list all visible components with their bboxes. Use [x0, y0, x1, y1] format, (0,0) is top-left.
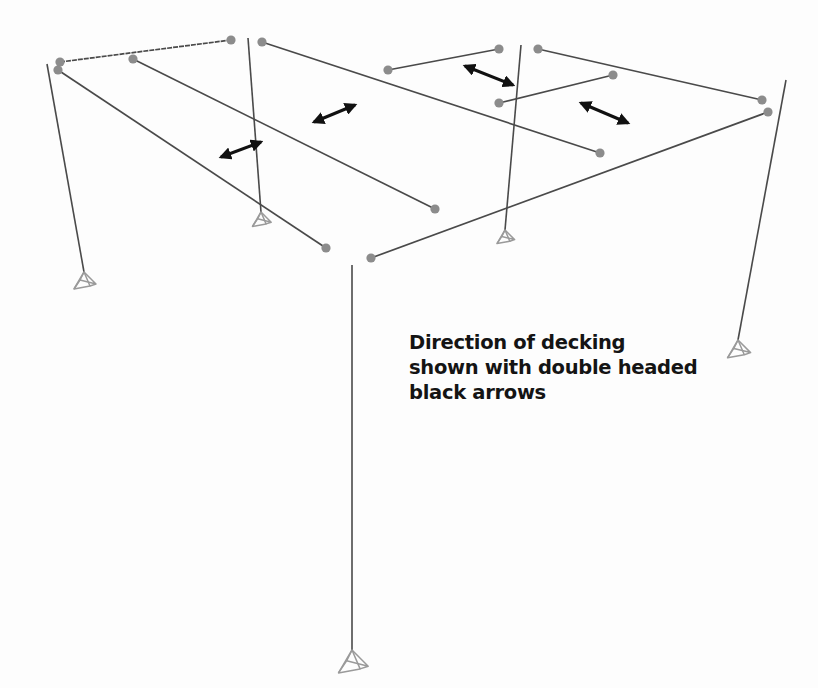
decking-arrow-1-icon: [221, 142, 261, 157]
beam-front-right: [371, 112, 768, 258]
decking-arrow-4-icon: [581, 103, 628, 123]
node-11: [757, 95, 766, 104]
caption-line-3: black arrows: [409, 380, 729, 405]
beam-center-short: [499, 75, 613, 103]
column-right: [738, 80, 786, 340]
decking-arrows-group: [221, 66, 628, 157]
node-6: [430, 204, 439, 213]
node-10: [533, 44, 542, 53]
support-left-icon: [74, 272, 96, 289]
support-front-icon: [339, 650, 369, 673]
column-mid-right: [505, 45, 521, 230]
node-8: [383, 65, 392, 74]
column-left: [47, 64, 84, 272]
node-3: [226, 35, 235, 44]
support-mid-right-icon: [497, 230, 515, 244]
beam-left-long: [58, 70, 326, 248]
node-0: [55, 57, 64, 66]
node-2: [128, 54, 137, 63]
beams-group: [58, 40, 768, 258]
node-9: [494, 44, 503, 53]
beam-left-inner: [133, 59, 435, 209]
node-4: [257, 37, 266, 46]
beam-mid-long: [262, 42, 600, 153]
diagram-canvas: Direction of decking shown with double h…: [0, 0, 818, 688]
decking-direction-caption: Direction of decking shown with double h…: [409, 330, 729, 405]
beam-top-center: [388, 49, 499, 70]
column-mid-left: [248, 38, 261, 212]
decking-arrow-3-icon: [465, 66, 513, 85]
caption-line-1: Direction of decking: [409, 330, 729, 355]
nodes-group: [53, 35, 772, 262]
decking-arrow-2-icon: [314, 105, 355, 122]
support-mid-left-icon: [253, 212, 272, 226]
support-right-icon: [728, 340, 751, 358]
beam-top-right: [538, 49, 762, 100]
node-14: [366, 253, 375, 262]
node-13: [608, 70, 617, 79]
node-15: [763, 107, 772, 116]
node-1: [53, 65, 62, 74]
node-12: [494, 98, 503, 107]
beam-top-left: [60, 40, 231, 62]
supports-group: [74, 212, 751, 673]
caption-line-2: shown with double headed: [409, 355, 729, 380]
node-7: [595, 148, 604, 157]
node-5: [321, 243, 330, 252]
